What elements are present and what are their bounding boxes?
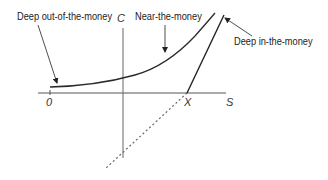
horizontal-axis-label: S xyxy=(226,97,233,108)
deep-otm-label: Deep out-of-the-money xyxy=(17,11,112,22)
vertical-axis-label: C xyxy=(117,13,125,24)
near-money-label: Near-the-money xyxy=(135,11,202,22)
intrinsic-value-dashed-line xyxy=(105,93,187,169)
deep-itm-arrow xyxy=(225,18,252,36)
origin-label: 0 xyxy=(46,97,52,108)
deep-otm-arrow xyxy=(38,25,57,83)
deep-itm-label: Deep in-the-money xyxy=(234,36,313,47)
strike-label: X xyxy=(184,97,191,108)
intrinsic-value-line xyxy=(187,15,224,93)
option-value-curve xyxy=(50,13,215,87)
